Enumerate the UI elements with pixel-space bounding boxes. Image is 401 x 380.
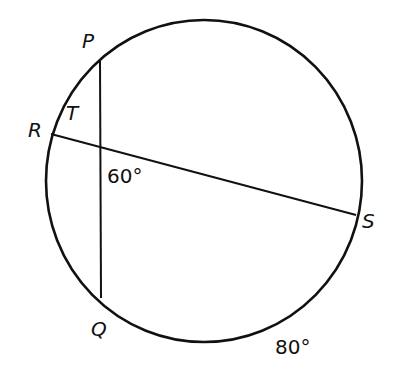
point-label-q: Q — [91, 317, 107, 341]
arc-label: 80° — [275, 335, 310, 359]
point-label-s: S — [362, 209, 375, 233]
chord-rs — [51, 134, 356, 215]
point-label-p: P — [82, 29, 95, 53]
circle-chord-diagram: P T R S Q 60° 80° — [0, 0, 401, 380]
chord-pq — [100, 61, 101, 298]
angle-label: 60° — [107, 164, 142, 188]
point-label-t: T — [66, 101, 80, 125]
diagram-canvas: P T R S Q 60° 80° — [0, 0, 401, 380]
circle — [46, 20, 362, 342]
point-label-r: R — [28, 118, 42, 142]
